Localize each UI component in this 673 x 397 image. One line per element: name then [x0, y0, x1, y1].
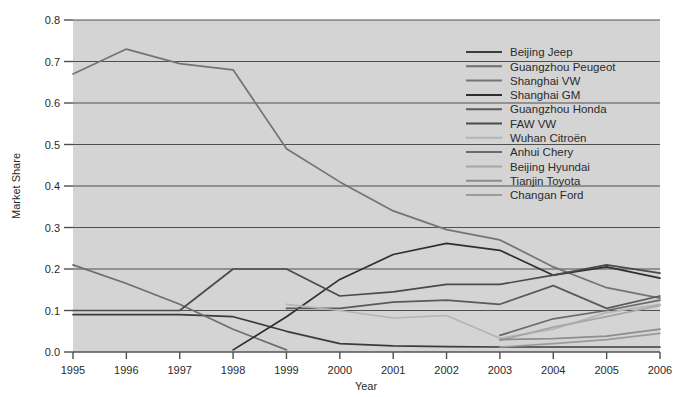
x-tick-label: 2002 — [434, 364, 458, 376]
y-tick-label: 0.0 — [45, 346, 60, 358]
y-tick-label: 0.8 — [45, 14, 60, 26]
y-tick-label: 0.1 — [45, 305, 60, 317]
legend-label-6: Wuhan Citroën — [510, 132, 587, 144]
x-tick-label: 1996 — [114, 364, 138, 376]
x-tick-label: 1999 — [274, 364, 298, 376]
y-tick-label: 0.4 — [45, 180, 60, 192]
legend-label-3: Shanghai GM — [510, 89, 580, 101]
legend-label-4: Guangzhou Honda — [510, 103, 607, 115]
y-tick-label: 0.7 — [45, 56, 60, 68]
legend-label-10: Changan Ford — [510, 189, 584, 201]
y-tick-label: 0.3 — [45, 222, 60, 234]
legend-label-1: Guangzhou Peugeot — [510, 61, 616, 73]
market-share-line-chart: 1995199619971998199920002001200220032004… — [0, 0, 673, 397]
legend-label-7: Anhui Chery — [510, 146, 574, 158]
legend-label-8: Beijing Hyundai — [510, 161, 590, 173]
legend-label-2: Shanghai VW — [510, 75, 580, 87]
chart-canvas: 1995199619971998199920002001200220032004… — [0, 0, 673, 397]
legend-label-5: FAW VW — [510, 118, 556, 130]
legend-label-0: Beijing Jeep — [510, 46, 573, 58]
y-tick-label: 0.6 — [45, 97, 60, 109]
y-axis-title: Market Share — [10, 153, 22, 219]
y-tick-label: 0.2 — [45, 263, 60, 275]
x-tick-label: 2006 — [648, 364, 672, 376]
x-tick-label: 2000 — [328, 364, 352, 376]
x-tick-label: 2001 — [381, 364, 405, 376]
legend-label-9: Tianjin Toyota — [510, 175, 581, 187]
x-tick-label: 1997 — [167, 364, 191, 376]
x-tick-label: 2003 — [488, 364, 512, 376]
y-tick-label: 0.5 — [45, 139, 60, 151]
x-tick-label: 1998 — [221, 364, 245, 376]
x-tick-label: 1995 — [61, 364, 85, 376]
x-axis-title: Year — [355, 380, 378, 392]
x-tick-label: 2004 — [541, 364, 565, 376]
x-tick-label: 2005 — [594, 364, 618, 376]
